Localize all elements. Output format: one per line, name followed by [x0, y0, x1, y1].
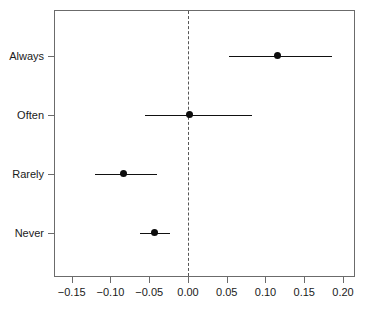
y-tick-label-rarely: Rarely: [12, 168, 44, 179]
x-tick-label: −0.05: [135, 287, 163, 298]
y-tick: [48, 56, 55, 57]
x-tick-label: 0.00: [177, 287, 198, 298]
x-tick: [72, 276, 73, 283]
zero-reference-line: [188, 11, 189, 276]
y-tick: [48, 174, 55, 175]
x-tick: [265, 276, 266, 283]
x-tick-label: −0.15: [58, 287, 86, 298]
x-tick: [110, 276, 111, 283]
y-tick-label-never: Never: [15, 227, 44, 238]
forest-plot: AlwaysOftenRarelyNever −0.15−0.10−0.050.…: [0, 0, 366, 312]
x-tick-label: 0.15: [294, 287, 315, 298]
x-tick: [304, 276, 305, 283]
plot-area: AlwaysOftenRarelyNever −0.15−0.10−0.050.…: [54, 10, 355, 277]
x-tick: [343, 276, 344, 283]
y-tick-label-often: Often: [17, 109, 44, 120]
y-tick: [48, 115, 55, 116]
estimate-point: [151, 229, 158, 236]
x-tick-label: −0.10: [97, 287, 125, 298]
x-tick: [188, 276, 189, 283]
x-tick-label: 0.10: [255, 287, 276, 298]
x-tick: [149, 276, 150, 283]
x-tick-label: 0.20: [332, 287, 353, 298]
confidence-interval-line: [145, 115, 253, 116]
x-tick-label: 0.05: [216, 287, 237, 298]
y-tick: [48, 233, 55, 234]
estimate-point: [186, 111, 193, 118]
estimate-point: [274, 52, 281, 59]
y-tick-label-always: Always: [9, 50, 44, 61]
estimate-point: [120, 170, 127, 177]
x-tick: [227, 276, 228, 283]
